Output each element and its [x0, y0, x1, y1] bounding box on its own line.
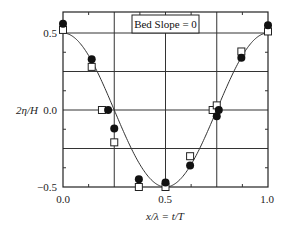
x-tick-0.5: 0.5 — [158, 193, 172, 205]
square-marker — [135, 184, 142, 191]
circle-marker — [162, 178, 170, 186]
circle-marker — [237, 54, 245, 62]
legend: Bed Slope = 0 — [132, 15, 199, 33]
x-tick-0.0: 0.0 — [56, 193, 70, 205]
square-marker — [111, 139, 118, 146]
y-tick-0.0: 0.0 — [43, 104, 57, 116]
y-tick-0.5: 0.5 — [43, 27, 57, 39]
y-axis-label: 2η/H — [16, 104, 39, 116]
y-tick-neg0.5: −0.5 — [37, 181, 57, 193]
circle-marker — [104, 106, 112, 114]
x-tick-1.0: 1.0 — [260, 193, 274, 205]
circle-marker — [88, 55, 96, 63]
circle-marker — [110, 124, 118, 132]
circle-marker — [264, 21, 272, 29]
grid-lines — [63, 12, 268, 187]
circle-marker — [215, 106, 223, 114]
chart: Bed Slope = 0 0.5 0.0 −0.5 2η/H 0.0 0.5 … — [0, 0, 287, 231]
circle-marker — [135, 175, 143, 183]
legend-text: Bed Slope = 0 — [134, 18, 197, 30]
square-marker — [187, 153, 194, 160]
circle-marker — [186, 161, 194, 169]
circle-marker — [59, 20, 67, 28]
square-marker — [88, 63, 95, 70]
x-axis-label: x/λ = t/T — [145, 210, 185, 222]
